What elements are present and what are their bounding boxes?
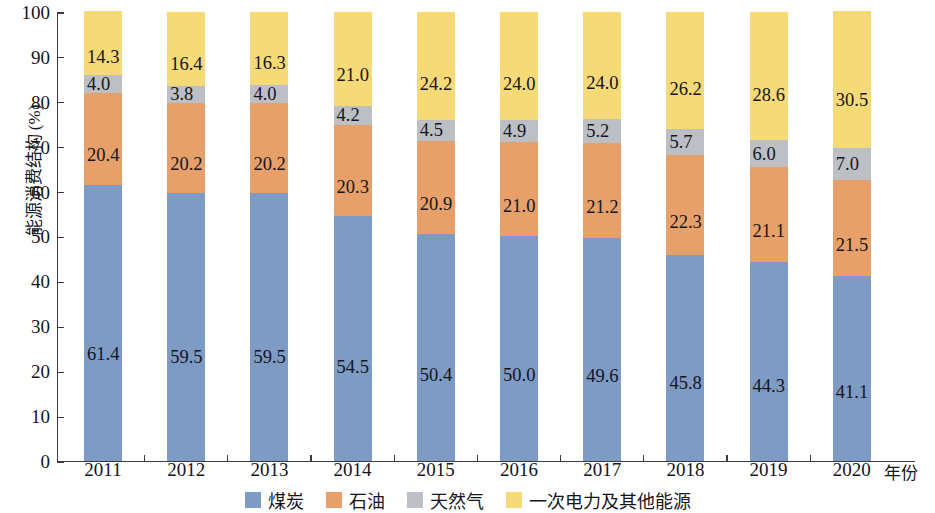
legend-swatch-icon <box>407 492 423 508</box>
y-axis-tick: 0 <box>57 461 64 462</box>
bar-segment[interactable]: 22.3 <box>666 155 704 255</box>
bar-segment[interactable]: 5.2 <box>583 119 621 142</box>
bar-2013[interactable]: 16.34.020.259.5 <box>250 12 288 461</box>
bar-2017[interactable]: 24.05.221.249.6 <box>583 12 621 461</box>
bar-segment[interactable]: 20.3 <box>334 125 372 216</box>
bar-segment[interactable]: 3.8 <box>167 86 205 103</box>
bar-segment[interactable]: 21.1 <box>750 167 788 262</box>
legend-item-3[interactable]: 一次电力及其他能源 <box>506 487 691 513</box>
legend-item-1[interactable]: 石油 <box>326 487 385 513</box>
bar-segment-value-label: 7.0 <box>836 155 859 174</box>
x-axis-tick-label: 2020 <box>822 459 882 481</box>
bar-segment[interactable]: 24.2 <box>417 12 455 121</box>
legend-label: 一次电力及其他能源 <box>529 487 691 513</box>
bar-2016[interactable]: 24.04.921.050.0 <box>500 12 538 461</box>
y-axis-tick-label: 60 <box>31 182 50 204</box>
bar-segment[interactable]: 7.0 <box>833 148 871 179</box>
bar-segment-value-label: 5.7 <box>669 133 692 152</box>
y-axis-tick-label: 90 <box>31 47 50 69</box>
bar-segment[interactable]: 24.0 <box>500 12 538 120</box>
bar-segment[interactable]: 59.5 <box>250 193 288 460</box>
x-axis-tick-label: 2018 <box>655 459 715 481</box>
y-axis-tick-label: 80 <box>31 92 50 114</box>
bar-segment-value-label: 61.4 <box>87 345 119 364</box>
bar-2019[interactable]: 28.66.021.144.3 <box>750 12 788 461</box>
bar-segment[interactable]: 24.0 <box>583 12 621 120</box>
bar-segment[interactable]: 50.4 <box>417 234 455 460</box>
bar-segment[interactable]: 20.9 <box>417 141 455 235</box>
y-axis-tick-label: 0 <box>41 451 51 473</box>
legend-item-0[interactable]: 煤炭 <box>245 487 304 513</box>
bar-segment[interactable]: 4.0 <box>84 75 122 93</box>
legend-item-2[interactable]: 天然气 <box>407 487 484 513</box>
y-axis-tick-label: 50 <box>31 226 50 248</box>
bar-segment[interactable]: 14.3 <box>84 11 122 75</box>
y-axis-tick: 30 <box>57 327 64 328</box>
bar-segment[interactable]: 44.3 <box>750 262 788 461</box>
bar-2015[interactable]: 24.24.520.950.4 <box>417 12 455 461</box>
legend-swatch-icon <box>326 492 342 508</box>
bar-segment-value-label: 3.8 <box>170 85 193 104</box>
bar-segment[interactable]: 16.3 <box>250 12 288 85</box>
bar-segment-value-label: 5.2 <box>586 122 609 141</box>
bar-segment-value-label: 50.0 <box>503 366 535 385</box>
bar-segment-value-label: 44.3 <box>753 377 785 396</box>
bar-2011[interactable]: 14.34.020.461.4 <box>84 11 122 460</box>
bar-segment[interactable]: 20.4 <box>84 93 122 185</box>
bar-segment[interactable]: 41.1 <box>833 276 871 461</box>
bar-segment[interactable]: 54.5 <box>334 216 372 461</box>
legend-label: 天然气 <box>430 487 484 513</box>
bar-segment[interactable]: 20.2 <box>250 103 288 194</box>
bar-segment[interactable]: 16.4 <box>167 12 205 86</box>
bar-segment[interactable]: 4.9 <box>500 120 538 142</box>
bar-segment[interactable]: 4.0 <box>250 85 288 103</box>
bar-segment-value-label: 4.2 <box>337 106 360 125</box>
bar-segment[interactable]: 45.8 <box>666 255 704 461</box>
bar-segment-value-label: 21.0 <box>337 66 369 85</box>
y-axis-tick: 80 <box>57 102 64 103</box>
bar-segment[interactable]: 30.5 <box>833 11 871 148</box>
bar-segment[interactable]: 50.0 <box>500 236 538 461</box>
bar-segment-value-label: 20.4 <box>87 146 119 165</box>
bar-segment[interactable]: 21.0 <box>334 12 372 106</box>
x-axis-tick <box>144 455 145 462</box>
legend-swatch-icon <box>245 492 261 508</box>
y-axis-tick-label: 30 <box>31 316 50 338</box>
bar-segment[interactable]: 6.0 <box>750 140 788 167</box>
y-axis-tick-label: 70 <box>31 137 50 159</box>
x-axis-tick-label: 2019 <box>739 459 799 481</box>
bar-segment-value-label: 30.5 <box>836 91 868 110</box>
y-axis-tick-label: 40 <box>31 271 50 293</box>
bar-segment-value-label: 20.2 <box>253 155 285 174</box>
bar-segment-value-label: 24.2 <box>420 75 452 94</box>
x-axis-tick-label: 2012 <box>156 459 216 481</box>
bar-segment[interactable]: 59.5 <box>167 193 205 460</box>
bar-segment-value-label: 26.2 <box>669 80 701 99</box>
bar-2018[interactable]: 26.25.722.345.8 <box>666 12 704 461</box>
bar-segment[interactable]: 61.4 <box>84 185 122 461</box>
bar-segment[interactable]: 26.2 <box>666 12 704 130</box>
plot-area: 0102030405060708090100 14.34.020.461.416… <box>57 13 915 462</box>
bar-segment[interactable]: 5.7 <box>666 129 704 155</box>
bar-segment[interactable]: 21.2 <box>583 143 621 238</box>
bar-segment-value-label: 54.5 <box>337 358 369 377</box>
bar-segment-value-label: 20.3 <box>337 178 369 197</box>
bar-segment[interactable]: 4.2 <box>334 106 372 125</box>
bar-2020[interactable]: 30.57.021.541.1 <box>833 11 871 460</box>
bar-segment[interactable]: 28.6 <box>750 12 788 140</box>
bar-segment-value-label: 21.1 <box>753 222 785 241</box>
bar-segment[interactable]: 20.2 <box>167 103 205 194</box>
bar-segment[interactable]: 21.0 <box>500 142 538 236</box>
bar-segment[interactable]: 21.5 <box>833 180 871 277</box>
bar-segment-value-label: 50.4 <box>420 366 452 385</box>
y-axis-tick: 90 <box>57 57 64 58</box>
y-axis-tick: 100 <box>57 12 64 13</box>
chart-legend: 煤炭石油天然气一次电力及其他能源 <box>0 487 935 513</box>
bar-2014[interactable]: 21.04.220.354.5 <box>334 12 372 461</box>
bar-segment[interactable]: 49.6 <box>583 238 621 461</box>
x-axis-tick-label: 2016 <box>489 459 549 481</box>
y-axis-tick: 70 <box>57 147 64 148</box>
x-axis-tick <box>477 455 478 462</box>
bar-segment[interactable]: 4.5 <box>417 120 455 140</box>
bar-2012[interactable]: 16.43.820.259.5 <box>167 12 205 461</box>
